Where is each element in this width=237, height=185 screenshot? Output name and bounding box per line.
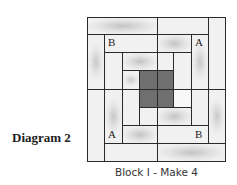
letter-a-top-right: A xyxy=(195,36,203,48)
block-caption: Block I - Make 4 xyxy=(87,166,226,178)
letter-b-bottom-right: B xyxy=(195,128,202,140)
quilt-block: B A A B xyxy=(87,17,226,162)
letter-b-top-left: B xyxy=(108,36,115,48)
letter-a-bottom-left: A xyxy=(108,128,116,140)
diagram-label: Diagram 2 xyxy=(12,130,71,146)
